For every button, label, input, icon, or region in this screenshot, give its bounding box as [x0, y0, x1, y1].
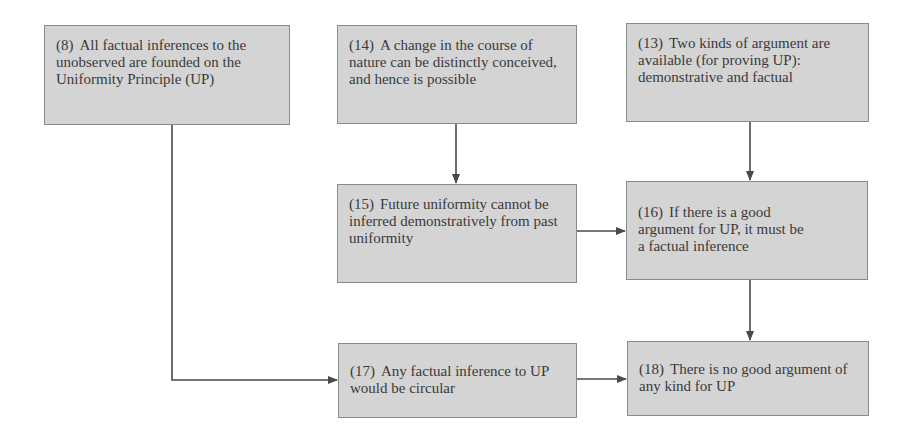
node-number: (13) — [638, 35, 663, 51]
node-text: All factual inferences to the unobserved… — [56, 37, 246, 87]
node-text: Future uniformity cannot be inferred dem… — [349, 196, 558, 246]
node-number: (18) — [639, 361, 664, 377]
node-18: (18)There is no good argument of any kin… — [627, 341, 869, 416]
node-16: (16)If there is a good argument for UP, … — [626, 181, 868, 280]
node-14: (14)A change in the course of nature can… — [337, 25, 577, 124]
edge-8-to-17 — [172, 125, 337, 380]
node-number: (14) — [349, 37, 374, 53]
node-number: (15) — [349, 196, 374, 212]
node-13: (13)Two kinds of argument are available … — [626, 23, 869, 122]
node-number: (16) — [638, 204, 663, 220]
node-15: (15)Future uniformity cannot be inferred… — [337, 184, 577, 283]
node-number: (17) — [350, 363, 375, 379]
node-text: Any factual inference to UP would be cir… — [350, 363, 549, 396]
node-8: (8)All factual inferences to the unobser… — [44, 25, 290, 125]
node-text: There is no good argument of any kind fo… — [639, 361, 848, 394]
node-text: A change in the course of nature can be … — [349, 37, 557, 87]
node-text: Two kinds of argument are available (for… — [638, 35, 830, 85]
node-number: (8) — [56, 37, 74, 53]
node-17: (17)Any factual inference to UP would be… — [338, 343, 577, 418]
